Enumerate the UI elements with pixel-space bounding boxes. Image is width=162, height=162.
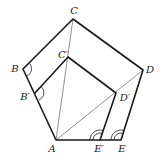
label-E: E xyxy=(118,144,125,154)
diagram-svg xyxy=(0,0,162,162)
label-D: D xyxy=(146,65,154,75)
label-B: B xyxy=(11,64,18,74)
label-D-prime: D′ xyxy=(120,93,130,103)
label-E-prime: E′ xyxy=(94,144,104,154)
label-C: C xyxy=(70,6,78,16)
outer-pentagon xyxy=(23,19,143,140)
label-B-prime: B′ xyxy=(20,92,30,102)
diagonal-AC xyxy=(56,19,73,140)
geometry-diagram: A B C D E B′ C′ D′ E′ xyxy=(0,0,162,162)
inner-pentagon xyxy=(35,57,116,140)
label-C-prime: C′ xyxy=(58,50,68,60)
label-A: A xyxy=(48,144,55,154)
